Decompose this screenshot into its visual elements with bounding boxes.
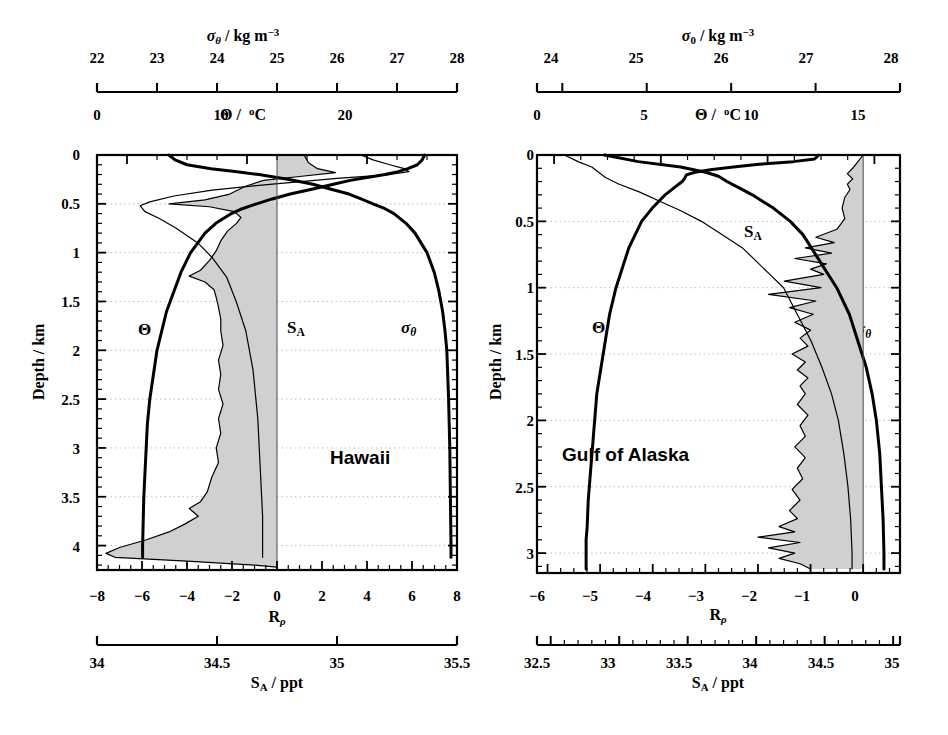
plot-svg-hawaii (0, 0, 474, 735)
figure-root: σθ / kg m−3 22 23 24 25 26 27 28 Θ / oC … (0, 0, 948, 735)
plot-svg-gulf-of-alaska (474, 0, 948, 735)
panel-hawaii: σθ / kg m−3 22 23 24 25 26 27 28 Θ / oC … (0, 0, 474, 735)
panel-gulf-of-alaska: σ0 / kg m−3 24 25 26 27 28 Θ / oC 0 5 10… (474, 0, 948, 735)
